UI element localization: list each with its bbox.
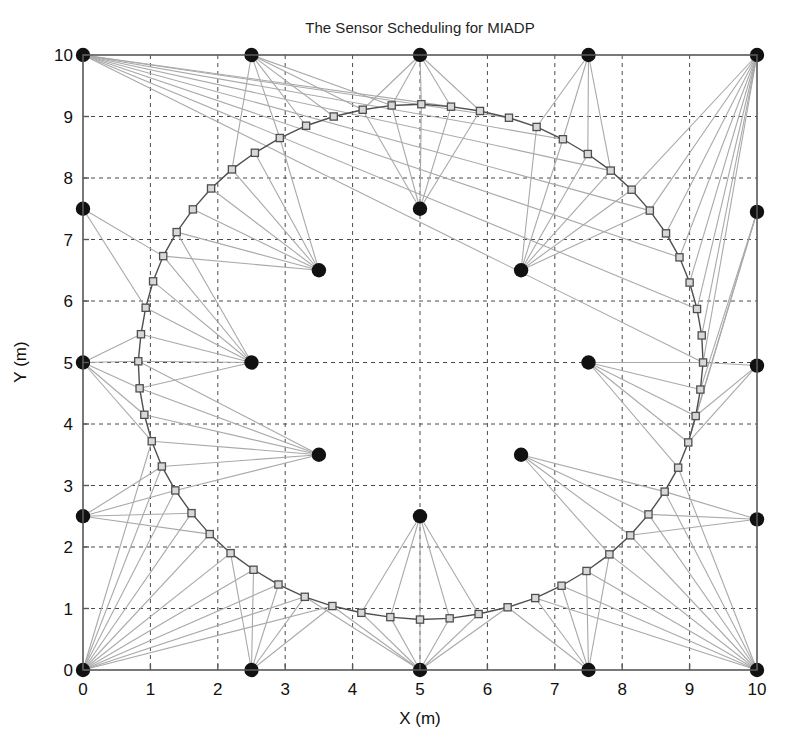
x-tick-label: 6 xyxy=(483,680,492,699)
y-tick-label: 5 xyxy=(64,354,73,373)
trajectory-marker xyxy=(158,463,165,470)
trajectory-marker xyxy=(276,134,283,141)
trajectory-marker xyxy=(693,305,700,312)
y-tick-label: 3 xyxy=(64,477,73,496)
sensor-node[interactable] xyxy=(413,202,427,216)
trajectory-marker xyxy=(387,614,394,621)
trajectory-marker xyxy=(676,254,683,261)
trajectory-marker xyxy=(607,167,614,174)
y-tick-label: 8 xyxy=(64,169,73,188)
trajectory-marker xyxy=(606,551,613,558)
trajectory-marker xyxy=(628,186,635,193)
trajectory-marker xyxy=(558,582,565,589)
x-tick-label: 0 xyxy=(78,680,87,699)
trajectory-marker xyxy=(142,304,149,311)
y-tick-label: 4 xyxy=(64,415,73,434)
trajectory-marker xyxy=(172,487,179,494)
sensor-scheduling-plot: The Sensor Scheduling for MIADP 01234567… xyxy=(0,0,805,745)
x-tick-label: 5 xyxy=(415,680,424,699)
sensor-node[interactable] xyxy=(514,448,528,462)
trajectory-marker xyxy=(559,136,566,143)
trajectory-marker xyxy=(661,488,668,495)
figure-root: The Sensor Scheduling for MIADP 01234567… xyxy=(0,0,805,745)
trajectory-marker xyxy=(685,439,692,446)
x-tick-label: 2 xyxy=(213,680,222,699)
x-tick-label: 3 xyxy=(280,680,289,699)
trajectory-marker xyxy=(532,594,539,601)
sensor-node[interactable] xyxy=(312,448,326,462)
trajectory-marker xyxy=(686,279,693,286)
trajectory-marker xyxy=(358,609,365,616)
sensor-track-link xyxy=(588,55,589,154)
y-tick-label: 7 xyxy=(64,231,73,250)
x-tick-label: 1 xyxy=(146,680,155,699)
x-tick-label: 4 xyxy=(348,680,357,699)
trajectory-marker xyxy=(692,412,699,419)
y-axis-label: Y (m) xyxy=(11,341,30,382)
sensor-node[interactable] xyxy=(244,355,258,369)
y-tick-label: 6 xyxy=(64,292,73,311)
trajectory-marker xyxy=(627,532,634,539)
trajectory-marker xyxy=(505,114,512,121)
sensor-node[interactable] xyxy=(312,263,326,277)
trajectory-marker xyxy=(359,106,366,113)
trajectory-marker xyxy=(583,567,590,574)
trajectory-marker xyxy=(141,411,148,418)
trajectory-marker xyxy=(388,102,395,109)
trajectory-marker xyxy=(329,602,336,609)
x-axis-label: X (m) xyxy=(399,709,441,728)
trajectory-marker xyxy=(475,610,482,617)
trajectory-marker xyxy=(137,331,144,338)
trajectory-marker xyxy=(160,253,167,260)
y-tick-label: 9 xyxy=(64,108,73,127)
trajectory-marker xyxy=(250,566,257,573)
trajectory-marker xyxy=(447,103,454,110)
y-tick-label: 1 xyxy=(64,600,73,619)
x-tick-label: 10 xyxy=(748,680,767,699)
trajectory-marker xyxy=(206,530,213,537)
trajectory-marker xyxy=(227,550,234,557)
trajectory-marker xyxy=(173,229,180,236)
trajectory-marker xyxy=(188,510,195,517)
trajectory-marker xyxy=(476,107,483,114)
trajectory-marker xyxy=(136,385,143,392)
trajectory-marker xyxy=(330,113,337,120)
trajectory-marker xyxy=(675,464,682,471)
trajectory-marker xyxy=(207,185,214,192)
trajectory-marker xyxy=(418,101,425,108)
trajectory-marker xyxy=(251,149,258,156)
trajectory-marker xyxy=(504,604,511,611)
trajectory-marker xyxy=(302,122,309,129)
y-tick-label: 10 xyxy=(54,46,73,65)
x-tick-label: 8 xyxy=(617,680,626,699)
trajectory-marker xyxy=(228,166,235,173)
y-tick-label: 2 xyxy=(64,538,73,557)
trajectory-marker xyxy=(698,332,705,339)
trajectory-marker xyxy=(645,511,652,518)
y-tick-label: 0 xyxy=(64,661,73,680)
trajectory-marker xyxy=(584,150,591,157)
trajectory-marker xyxy=(662,230,669,237)
sensor-node[interactable] xyxy=(413,509,427,523)
trajectory-marker xyxy=(699,359,706,366)
x-tick-label: 7 xyxy=(550,680,559,699)
trajectory-marker xyxy=(189,206,196,213)
trajectory-marker xyxy=(149,278,156,285)
trajectory-marker xyxy=(697,386,704,393)
sensor-node[interactable] xyxy=(581,355,595,369)
trajectory-marker xyxy=(446,615,453,622)
figure-background xyxy=(0,0,805,745)
trajectory-marker xyxy=(148,438,155,445)
trajectory-marker xyxy=(135,358,142,365)
trajectory-marker xyxy=(533,123,540,130)
chart-title: The Sensor Scheduling for MIADP xyxy=(305,19,534,36)
trajectory-marker xyxy=(416,616,423,623)
trajectory-marker xyxy=(301,593,308,600)
trajectory-marker xyxy=(646,207,653,214)
trajectory-marker xyxy=(275,581,282,588)
x-tick-label: 9 xyxy=(685,680,694,699)
sensor-node[interactable] xyxy=(514,263,528,277)
